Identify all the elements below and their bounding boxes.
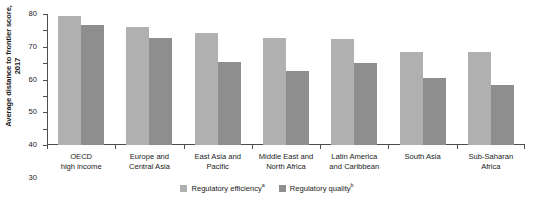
legend-footnote-marker: a [262,182,265,188]
x-tick-mark [524,145,525,149]
x-tick-mark [320,145,321,149]
x-axis-label: East Asia and Pacific [184,152,252,171]
plot-area: 01020304050607080 [47,14,525,145]
x-tick-mark [252,145,253,149]
bar [491,85,514,145]
bar [468,52,491,145]
bar [58,16,81,145]
bar [286,71,309,145]
bar-group [320,14,388,145]
chart-legend: Regulatory efficiencyaRegulatory quality… [0,184,534,193]
x-tick-mark [115,145,116,149]
bar-group [252,14,320,145]
bar [354,63,377,145]
y-tick-label: 30 [29,174,37,182]
bar [400,52,423,145]
legend-label: Regulatory qualityb [290,184,354,193]
bar-group [47,14,115,145]
legend-label: Regulatory efficiencya [191,184,264,193]
x-axis-label: Sub-Saharan Africa [457,152,525,171]
x-axis-label: Latin America and Caribbean [320,152,388,171]
bar [218,62,241,146]
legend-footnote-marker: b [351,182,354,188]
bar [423,78,446,145]
bar [195,33,218,145]
bar [126,27,149,145]
legend-item[interactable]: Regulatory qualityb [279,184,354,193]
legend-swatch-icon [180,185,187,192]
chart-figure: Average distance to frontier score, 2017… [0,0,534,205]
x-axis-label: Middle East and North Africa [252,152,320,171]
legend-swatch-icon [279,185,286,192]
x-tick-mark [184,145,185,149]
bar [263,38,286,145]
x-axis-label: Europe and Central Asia [115,152,183,171]
y-tick-label: 80 [29,10,37,18]
y-tick-label: 50 [29,108,37,116]
bar-group [184,14,252,145]
bar-group [115,14,183,145]
x-axis-labels: OECD high incomeEurope and Central AsiaE… [47,152,525,178]
y-tick-label: 70 [29,43,37,51]
x-axis-label: OECD high income [47,152,115,171]
bar-group [388,14,456,145]
x-axis-label: South Asia [388,152,456,162]
x-tick-mark [47,145,48,149]
y-axis-title-container: Average distance to frontier score, 2017 [0,12,26,152]
y-axis-title: Average distance to frontier score, 2017 [0,0,26,136]
legend-item[interactable]: Regulatory efficiencya [180,184,264,193]
bar [331,39,354,145]
y-tick-label: 60 [29,76,37,84]
y-tick-label: 40 [29,141,37,149]
x-tick-mark [457,145,458,149]
x-tick-mark [388,145,389,149]
bar [81,25,104,145]
bar [149,38,172,145]
bar-group [457,14,525,145]
